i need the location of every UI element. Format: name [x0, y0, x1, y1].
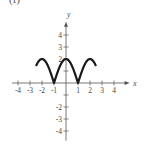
- x-tick-label: 3: [100, 86, 104, 95]
- x-tick-label: 4: [112, 86, 116, 95]
- x-axis-arrow-icon: [125, 81, 130, 85]
- y-tick-label: -3: [56, 115, 62, 124]
- y-tick-label: -4: [56, 127, 62, 136]
- function-graph: xy-4-3-2-11234-4-3-2234: [0, 0, 147, 152]
- x-tick-label: 2: [88, 86, 92, 95]
- x-tick-label: -2: [39, 86, 45, 95]
- x-tick-label: -4: [15, 86, 21, 95]
- y-axis-label: y: [66, 10, 71, 19]
- x-tick-label: 1: [76, 86, 80, 95]
- y-tick-label: -2: [56, 103, 62, 112]
- x-tick-label: -1: [51, 86, 57, 95]
- y-tick-label: 3: [58, 43, 62, 52]
- y-axis-arrow-icon: [64, 22, 68, 27]
- x-axis-label: x: [132, 79, 137, 88]
- x-tick-label: -3: [27, 86, 33, 95]
- y-tick-label: 4: [58, 31, 62, 40]
